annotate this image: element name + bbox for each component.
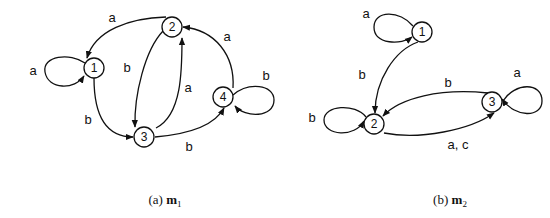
edge-label-m1-2-1: a [108,10,116,25]
edge-label-m2-3-2: b [444,75,451,90]
caption-m2: (b) m2 [433,192,467,209]
state-m2-1: 1 [412,22,432,42]
state-diagrams: a a b b a b a b 1 2 3 [0,0,550,218]
edge-label-m1-2-3: b [123,60,130,75]
edge-label-m2-2-2: b [308,110,315,125]
edge-label-m2-2-3: a, c [448,137,469,152]
edge-label-m1-3-4: b [185,139,192,154]
edge-m1-2-1 [87,17,166,58]
edge-label-m2-1-2: b [358,67,365,82]
state-m1-1: 1 [84,58,104,78]
svg-text:2: 2 [169,20,176,34]
svg-text:3: 3 [489,95,496,109]
edge-m2-3-3 [502,87,542,114]
svg-text:1: 1 [91,61,98,75]
state-m2-3: 3 [482,92,502,112]
edge-label-m1-1-1: a [29,63,37,78]
edge-label-m1-1-3: b [84,112,91,127]
diagram-m1: a a b b a b a b 1 2 3 [29,10,274,210]
edge-m2-1-1 [374,14,413,42]
edge-m2-3-2 [383,92,488,116]
caption-m1: (a) m1 [148,192,181,209]
state-m1-2: 2 [162,17,182,37]
edge-label-m1-3-2: a [184,80,192,95]
svg-text:1: 1 [419,25,426,39]
state-m2-2: 2 [364,114,384,134]
edge-m2-2-2 [324,108,366,133]
edge-m2-2-3 [384,113,494,135]
svg-text:3: 3 [141,130,148,144]
edge-label-m1-4-2: a [223,29,231,44]
svg-text:2: 2 [371,117,378,131]
edge-m1-2-3 [135,31,163,127]
edge-label-m2-1-1: a [362,6,370,21]
edge-m1-1-1 [45,57,85,86]
edge-label-m1-4-4: b [262,68,269,83]
edge-label-m2-3-3: a [513,65,521,80]
edge-m1-3-2 [156,38,182,128]
state-m1-3: 3 [134,127,154,147]
state-m1-4: 4 [213,87,233,107]
edge-m1-4-4 [233,86,274,114]
edge-m1-1-3 [94,78,133,137]
svg-text:4: 4 [220,90,227,104]
edge-m2-1-2 [375,42,418,113]
edge-m1-3-4 [155,108,224,137]
diagram-m2: a b b b a, c a 1 2 3 (b) m2 [308,6,542,210]
